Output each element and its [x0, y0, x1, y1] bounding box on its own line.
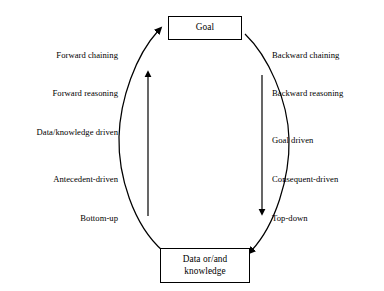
diagram-canvas: Goal Data or/and knowledge Forward chain…	[0, 0, 384, 291]
node-data-knowledge: Data or/and knowledge	[160, 248, 250, 283]
label-data-knowledge-driven: Data/knowledge driven	[0, 127, 118, 137]
label-consequent-driven: Consequent-driven	[272, 174, 384, 184]
label-bottom-up: Bottom-up	[0, 213, 118, 223]
label-antecedent-driven: Antecedent-driven	[0, 174, 118, 184]
label-goal-driven: Goal driven	[272, 135, 384, 145]
label-top-down: Top-down	[272, 213, 384, 223]
label-backward-reasoning: Backward reasoning	[272, 88, 384, 98]
label-backward-chaining: Backward chaining	[272, 50, 384, 60]
node-goal-label: Goal	[196, 22, 214, 34]
label-forward-reasoning: Forward reasoning	[0, 88, 118, 98]
node-data-knowledge-label: Data or/and knowledge	[183, 254, 228, 277]
label-forward-chaining: Forward chaining	[0, 50, 118, 60]
edge-left-curve	[119, 31, 163, 251]
node-goal: Goal	[168, 16, 242, 40]
